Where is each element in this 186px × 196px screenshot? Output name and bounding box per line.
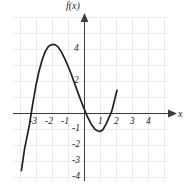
y-tick--4: -4 <box>72 172 80 182</box>
graph-figure: f(x) x -3 -2 -1 1 2 3 4 4 2 -1 -2 -3 -4 <box>0 0 186 196</box>
function-curve <box>21 45 117 171</box>
x-tick-3: 3 <box>130 117 135 127</box>
x-tick--2: -2 <box>45 117 53 127</box>
y-tick--2: -2 <box>72 140 80 150</box>
y-tick--1: -1 <box>72 124 80 134</box>
x-tick--3: -3 <box>29 117 37 127</box>
coordinate-plane <box>0 0 186 196</box>
y-tick--3: -3 <box>72 156 80 166</box>
y-axis-label: f(x) <box>66 1 80 11</box>
x-tick-1: 1 <box>98 117 103 127</box>
x-axis-arrow <box>168 110 177 118</box>
x-axis-label: x <box>178 109 182 119</box>
x-tick-2: 2 <box>114 117 119 127</box>
y-tick-4: 4 <box>74 44 79 54</box>
x-tick-4: 4 <box>146 117 151 127</box>
grid-lines <box>13 17 168 181</box>
x-tick--1: -1 <box>61 117 69 127</box>
y-tick-2: 2 <box>74 76 79 86</box>
